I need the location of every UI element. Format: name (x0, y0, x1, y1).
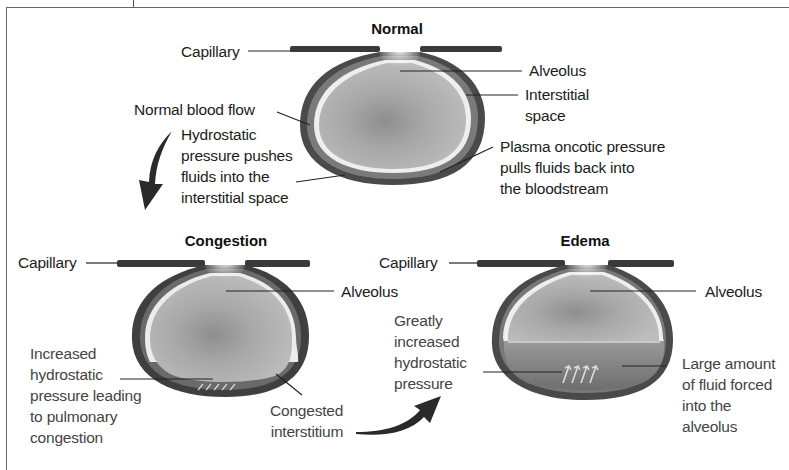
panel-title-normal: Normal (371, 20, 423, 37)
edema-alveolus-shape (477, 253, 674, 400)
label-edema-large-fluid: Large amount of fluid forced into the al… (682, 353, 775, 437)
label-congestion-congested-interstitium: Congested interstitium (266, 400, 343, 442)
label-normal-blood-flow: Normal blood flow (134, 99, 255, 120)
panel-title-edema: Edema (560, 232, 609, 249)
label-normal-oncotic: Plasma oncotic pressure pulls fluids bac… (500, 136, 665, 199)
label-normal-interstitial: Interstitial space (525, 84, 589, 126)
normal-alveolus-shape (290, 41, 502, 185)
panel-title-congestion: Congestion (185, 232, 268, 249)
label-congestion-increased-pressure: Increased hydrostatic pressure leading t… (30, 343, 141, 448)
label-normal-capillary: Capillary (181, 41, 240, 62)
label-edema-alveolus: Alveolus (705, 281, 762, 302)
congestion-alveolus-shape (117, 253, 310, 397)
label-edema-greatly-increased: Greatly increased hydrostatic pressure (394, 310, 467, 394)
label-edema-capillary: Capillary (379, 252, 438, 273)
label-normal-alveolus: Alveolus (529, 60, 586, 81)
label-congestion-capillary: Capillary (18, 252, 77, 273)
label-congestion-alveolus: Alveolus (341, 281, 398, 302)
label-normal-hydrostatic: Hydrostatic pressure pushes fluids into … (181, 124, 293, 208)
arrow-congestion-to-edema-icon (356, 396, 441, 435)
arrow-normal-to-congestion-icon (139, 131, 172, 210)
